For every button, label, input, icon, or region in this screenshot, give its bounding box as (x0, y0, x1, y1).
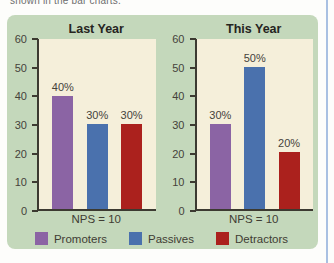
chart-panel: Last Year 0102030405060 40%30%30% NPS = … (7, 15, 318, 249)
y-tick-label: 50 (172, 62, 184, 74)
bar-value-label: 50% (244, 52, 266, 64)
y-tick-label: 20 (15, 148, 27, 160)
plot-area: 30%50%20% (195, 39, 314, 211)
y-axis: 0102030405060 (10, 39, 37, 211)
plot-row: 0102030405060 30%50%20% (168, 39, 314, 211)
legend-label: Passives (148, 233, 194, 245)
bar-value-label: 40% (52, 81, 74, 93)
bar-chart-this-year: This Year 0102030405060 30%50%20% NPS = … (168, 22, 314, 227)
y-tick-label: 20 (172, 148, 184, 160)
page-border-line (326, 0, 328, 263)
y-tick-label: 0 (178, 205, 184, 217)
y-tick-label: 50 (15, 62, 27, 74)
bar-chart-last-year: Last Year 0102030405060 40%30%30% NPS = … (10, 22, 156, 227)
y-tick-label: 40 (172, 90, 184, 102)
y-tick-label: 40 (15, 90, 27, 102)
legend-swatch (35, 232, 48, 245)
bar-promoters: 30% (210, 124, 231, 209)
bar-value-label: 20% (278, 137, 300, 149)
chart-title: Last Year (10, 22, 156, 37)
y-axis: 0102030405060 (168, 39, 195, 211)
y-tick-label: 60 (172, 33, 184, 45)
legend-swatch (216, 232, 229, 245)
legend-item-passives: Passives (129, 232, 194, 245)
bar-value-label: 30% (121, 109, 143, 121)
clipped-caption: shown in the bar charts. (10, 0, 121, 6)
bar-passives: 30% (87, 124, 108, 209)
legend-item-detractors: Detractors (216, 232, 288, 245)
legend: PromotersPassivesDetractors (10, 232, 313, 245)
bar-detractors: 20% (279, 152, 300, 209)
bar-value-label: 30% (86, 109, 108, 121)
y-tick-label: 30 (15, 119, 27, 131)
x-axis-label: NPS = 10 (10, 211, 156, 227)
plot-row: 0102030405060 40%30%30% (10, 39, 156, 211)
figure: shown in the bar charts. Last Year 01020… (0, 0, 334, 263)
chart-title: This Year (168, 22, 314, 37)
plot-area: 40%30%30% (37, 39, 156, 211)
bar-detractors: 30% (121, 124, 142, 209)
bar-promoters: 40% (52, 96, 73, 209)
legend-swatch (129, 232, 142, 245)
legend-label: Promoters (54, 233, 107, 245)
bar-value-label: 30% (209, 109, 231, 121)
x-axis-label: NPS = 10 (168, 211, 314, 227)
legend-item-promoters: Promoters (35, 232, 107, 245)
y-tick-label: 30 (172, 119, 184, 131)
y-tick-label: 10 (15, 176, 27, 188)
y-tick-label: 0 (21, 205, 27, 217)
y-tick-label: 10 (172, 176, 184, 188)
y-tick-label: 60 (15, 33, 27, 45)
bar-passives: 50% (244, 67, 265, 209)
legend-label: Detractors (235, 233, 288, 245)
charts-row: Last Year 0102030405060 40%30%30% NPS = … (10, 22, 313, 227)
